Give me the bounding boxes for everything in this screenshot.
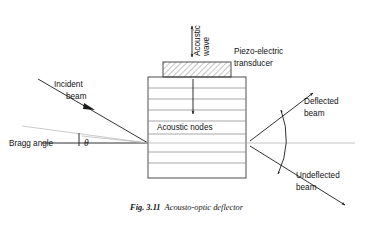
- acoustic-wave-label-line1: Acoustic: [193, 25, 202, 56]
- acoustic-wave-label-line2: wave: [202, 36, 211, 57]
- piezo-transducer-label-line1: Piezo-electric: [234, 47, 283, 56]
- deflected-beam-label: Deflected beam: [304, 97, 339, 118]
- piezo-transducer-label-line2: transducer: [234, 59, 273, 68]
- undeflected-beam-label: Undeflected beam: [296, 171, 340, 192]
- incident-beam-label-line1: Incident: [54, 80, 83, 89]
- piezo-transducer-label: Piezo-electric transducer: [234, 47, 283, 68]
- acoustic-nodes-label: Acoustic nodes: [157, 123, 213, 132]
- undeflected-beam-label-line2: beam: [296, 183, 317, 192]
- diagram-canvas: Acoustic wave Piezo-electric transducer …: [0, 0, 373, 230]
- piezo-electric-transducer: [163, 62, 231, 77]
- theta-symbol: θ: [84, 138, 89, 148]
- incident-beam-label: Incident beam: [54, 80, 87, 101]
- figure-acousto-optic-deflector: Acoustic wave Piezo-electric transducer …: [0, 0, 373, 230]
- deflected-beam-label-line1: Deflected: [304, 97, 339, 106]
- figure-caption-text: Acousto-optic deflector: [165, 203, 243, 212]
- deflected-beam-label-line2: beam: [304, 109, 325, 118]
- acoustic-wave-label: Acoustic wave: [193, 25, 211, 57]
- figure-caption-number: Fig. 3.11: [130, 203, 160, 212]
- acoustic-nodes-label-text: Acoustic nodes: [157, 123, 213, 132]
- incident-beam-label-line2: beam: [66, 92, 87, 101]
- incident-beam-arrowhead: [83, 103, 95, 110]
- undeflected-beam-label-line1: Undeflected: [296, 171, 340, 180]
- figure-caption: Fig. 3.11Acousto-optic deflector: [0, 203, 373, 212]
- bragg-angle-label-text: Bragg angle: [9, 139, 54, 148]
